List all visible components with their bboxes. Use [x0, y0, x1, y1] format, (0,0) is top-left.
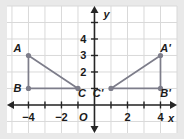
vertex-point-Cprime	[108, 86, 113, 91]
vertex-point-B	[26, 86, 31, 91]
vertex-label-B: B	[13, 82, 21, 94]
coordinate-plane-figure: −4−224234yxOABCA'B'C'	[0, 0, 184, 139]
vertex-point-A	[26, 53, 31, 58]
y-tick-label: 2	[80, 66, 86, 78]
vertex-label-Bprime: B'	[160, 87, 171, 99]
y-tick-label: 4	[80, 33, 87, 45]
x-axis-label: x	[167, 112, 175, 124]
x-tick-label: 2	[124, 111, 130, 123]
vertex-label-A: A	[12, 42, 21, 54]
origin-label: O	[79, 111, 88, 123]
vertex-label-Cprime: C'	[93, 87, 104, 99]
vertex-label-Aprime: A'	[159, 42, 171, 54]
x-tick-label: −4	[22, 111, 35, 123]
y-axis-label: y	[102, 8, 110, 20]
vertex-label-C: C	[78, 87, 87, 99]
y-tick-label: 3	[80, 49, 86, 61]
x-tick-label: −2	[55, 111, 68, 123]
x-tick-label: 4	[157, 111, 164, 123]
graph-canvas: −4−224234yxOABCA'B'C'	[0, 0, 184, 139]
